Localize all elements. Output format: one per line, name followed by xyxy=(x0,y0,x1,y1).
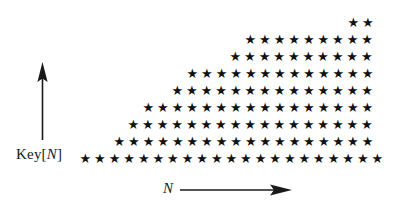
data-point-star: ★ xyxy=(143,136,154,147)
data-point-star: ★ xyxy=(201,119,212,130)
data-point-star: ★ xyxy=(361,51,372,62)
data-point-star: ★ xyxy=(245,136,256,147)
y-axis-label-suffix: ] xyxy=(57,146,62,162)
data-point-star: ★ xyxy=(216,68,227,79)
data-point-star: ★ xyxy=(255,153,266,164)
data-point-star: ★ xyxy=(318,136,329,147)
data-point-star: ★ xyxy=(230,85,241,96)
data-point-star: ★ xyxy=(153,153,164,164)
data-point-star: ★ xyxy=(123,153,134,164)
data-point-star: ★ xyxy=(230,102,241,113)
up-arrow-icon xyxy=(30,60,56,142)
x-axis-label: N xyxy=(163,180,173,197)
right-arrow-icon xyxy=(178,178,298,202)
data-point-star: ★ xyxy=(226,153,237,164)
data-point-star: ★ xyxy=(187,136,198,147)
data-point-star: ★ xyxy=(172,102,183,113)
data-point-star: ★ xyxy=(109,153,120,164)
data-point-star: ★ xyxy=(332,102,343,113)
data-point-star: ★ xyxy=(318,34,329,45)
y-axis-label-prefix: Key[ xyxy=(16,146,47,162)
data-point-star: ★ xyxy=(167,153,178,164)
data-point-star: ★ xyxy=(303,68,314,79)
data-point-star: ★ xyxy=(289,136,300,147)
data-point-star: ★ xyxy=(186,119,197,130)
data-point-star: ★ xyxy=(187,68,198,79)
data-point-star: ★ xyxy=(274,68,285,79)
data-point-star: ★ xyxy=(260,68,271,79)
data-point-star: ★ xyxy=(240,153,251,164)
data-point-star: ★ xyxy=(201,85,212,96)
data-point-star: ★ xyxy=(318,85,329,96)
data-point-star: ★ xyxy=(346,51,357,62)
data-point-star: ★ xyxy=(244,51,255,62)
data-point-star: ★ xyxy=(347,85,358,96)
data-point-star: ★ xyxy=(143,102,154,113)
data-point-star: ★ xyxy=(362,17,373,28)
data-point-star: ★ xyxy=(157,136,168,147)
data-point-star: ★ xyxy=(230,68,241,79)
data-point-star: ★ xyxy=(216,136,227,147)
data-point-star: ★ xyxy=(245,102,256,113)
data-point-star: ★ xyxy=(274,102,285,113)
data-point-star: ★ xyxy=(230,51,241,62)
data-point-star: ★ xyxy=(347,119,358,130)
data-point-star: ★ xyxy=(182,153,193,164)
data-point-star: ★ xyxy=(273,51,284,62)
data-point-star: ★ xyxy=(157,102,168,113)
data-point-star: ★ xyxy=(289,102,300,113)
data-point-star: ★ xyxy=(274,119,285,130)
data-point-star: ★ xyxy=(362,102,373,113)
y-axis-label: Key[N] xyxy=(16,146,62,163)
data-point-star: ★ xyxy=(303,102,314,113)
data-point-star: ★ xyxy=(259,34,270,45)
data-point-star: ★ xyxy=(128,136,139,147)
data-point-star: ★ xyxy=(201,68,212,79)
data-point-star: ★ xyxy=(186,102,197,113)
data-point-star: ★ xyxy=(357,153,368,164)
data-point-star: ★ xyxy=(230,119,241,130)
data-point-star: ★ xyxy=(361,85,372,96)
data-point-star: ★ xyxy=(332,51,343,62)
data-point-star: ★ xyxy=(201,102,212,113)
data-point-star: ★ xyxy=(347,136,358,147)
data-point-star: ★ xyxy=(186,85,197,96)
data-point-star: ★ xyxy=(318,68,329,79)
data-point-star: ★ xyxy=(284,153,295,164)
data-point-star: ★ xyxy=(172,136,183,147)
data-point-star: ★ xyxy=(303,119,314,130)
data-point-star: ★ xyxy=(313,153,324,164)
data-point-star: ★ xyxy=(230,136,241,147)
data-point-star: ★ xyxy=(171,119,182,130)
data-point-star: ★ xyxy=(259,119,270,130)
data-point-star: ★ xyxy=(317,119,328,130)
data-point-star: ★ xyxy=(348,17,359,28)
data-point-star: ★ xyxy=(361,119,372,130)
data-point-star: ★ xyxy=(332,85,343,96)
data-point-star: ★ xyxy=(269,153,280,164)
data-point-star: ★ xyxy=(303,51,314,62)
data-point-star: ★ xyxy=(303,136,314,147)
data-point-star: ★ xyxy=(260,136,271,147)
data-point-star: ★ xyxy=(347,34,358,45)
data-point-star: ★ xyxy=(80,153,91,164)
data-point-star: ★ xyxy=(303,85,314,96)
data-point-star: ★ xyxy=(114,136,125,147)
data-point-star: ★ xyxy=(215,85,226,96)
data-point-star: ★ xyxy=(196,153,207,164)
data-point-star: ★ xyxy=(289,68,300,79)
data-point-star: ★ xyxy=(288,85,299,96)
data-point-star: ★ xyxy=(128,119,139,130)
data-point-star: ★ xyxy=(244,119,255,130)
data-point-star: ★ xyxy=(299,153,310,164)
data-point-star: ★ xyxy=(94,153,105,164)
data-point-star: ★ xyxy=(347,102,358,113)
data-point-star: ★ xyxy=(303,34,314,45)
data-point-star: ★ xyxy=(288,34,299,45)
data-point-star: ★ xyxy=(138,153,149,164)
data-point-star: ★ xyxy=(361,34,372,45)
data-point-star: ★ xyxy=(259,51,270,62)
data-point-star: ★ xyxy=(328,153,339,164)
data-point-star: ★ xyxy=(274,136,285,147)
data-point-star: ★ xyxy=(245,68,256,79)
